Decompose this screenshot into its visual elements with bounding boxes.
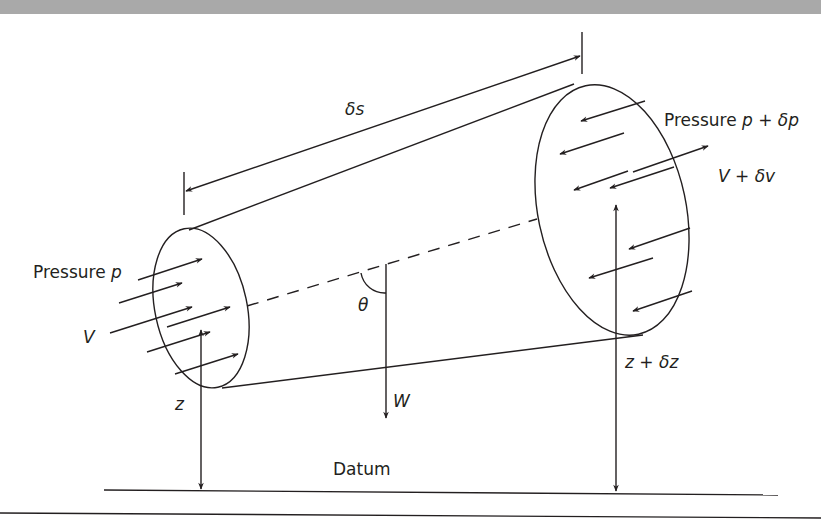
velocity-out-arrow-back bbox=[574, 171, 628, 190]
length-arrow bbox=[186, 56, 580, 191]
tube-top-edge bbox=[189, 84, 574, 230]
velocity-out-label: V + δv bbox=[718, 166, 776, 186]
weight-label: W bbox=[393, 391, 411, 411]
pressure-out-label: Pressure p + δp bbox=[664, 110, 799, 130]
datum-label: Datum bbox=[333, 459, 391, 479]
bottom-rule bbox=[0, 513, 821, 518]
tube-centerline bbox=[247, 219, 537, 306]
length-dimension bbox=[184, 32, 582, 215]
datum-line bbox=[104, 490, 778, 495]
height-z-label: z bbox=[174, 394, 185, 414]
stream-tube-diagram: δs Pressure p + δp V + δv Pressure p V θ… bbox=[0, 0, 821, 523]
inlet-pressure-arrows bbox=[110, 259, 238, 374]
pressure-in-label: Pressure p bbox=[33, 262, 122, 282]
length-label: δs bbox=[345, 99, 364, 119]
height-z-dz-label: z + δz bbox=[624, 352, 679, 372]
angle-arc bbox=[361, 273, 386, 293]
angle-label: θ bbox=[358, 295, 369, 315]
velocity-in-label: V bbox=[83, 327, 96, 347]
tube-bottom-edge bbox=[222, 335, 643, 388]
